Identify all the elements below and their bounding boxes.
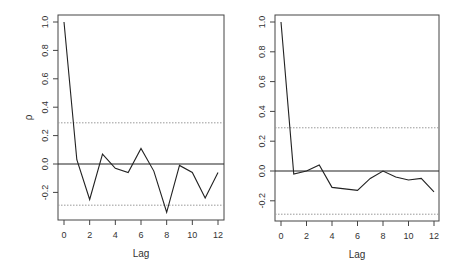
acf-figure: -0.20.00.20.40.60.81.0024681012Lagρ-0.20… — [0, 0, 461, 272]
y-tick-label: 0.6 — [257, 75, 267, 88]
acf-series-line — [281, 22, 434, 192]
x-tick-label: 12 — [213, 230, 223, 240]
y-tick-label: 1.0 — [257, 16, 267, 29]
x-tick-label: 2 — [87, 230, 92, 240]
y-tick-label: 0.0 — [257, 165, 267, 178]
x-axis-title: Lag — [133, 248, 150, 259]
acf-series-line — [64, 22, 218, 212]
y-tick-label: 0.0 — [40, 158, 50, 171]
x-tick-label: 2 — [304, 231, 309, 241]
y-tick-label: 1.0 — [40, 16, 50, 29]
x-tick-label: 6 — [355, 231, 360, 241]
y-tick-label: -0.2 — [40, 185, 50, 201]
x-tick-label: 8 — [164, 230, 169, 240]
plot-frame — [58, 15, 224, 220]
x-axis-title: Lag — [349, 249, 366, 260]
x-tick-label: 10 — [187, 230, 197, 240]
y-tick-label: 0.8 — [40, 44, 50, 57]
x-tick-label: 0 — [278, 231, 283, 241]
acf-panel-1: -0.20.00.20.40.60.81.0024681012Lagρ — [23, 15, 224, 259]
y-tick-label: 0.6 — [40, 73, 50, 86]
x-tick-label: 8 — [380, 231, 385, 241]
y-tick-label: 0.4 — [40, 101, 50, 114]
x-tick-label: 6 — [138, 230, 143, 240]
y-tick-label: -0.2 — [257, 193, 267, 209]
x-tick-label: 0 — [61, 230, 66, 240]
y-tick-label: 0.2 — [257, 135, 267, 148]
acf-panel-2: -0.20.00.20.40.60.81.0024681012Lag — [257, 15, 439, 260]
y-tick-label: 0.8 — [257, 46, 267, 59]
y-tick-label: 0.2 — [40, 129, 50, 142]
y-tick-label: 0.4 — [257, 105, 267, 118]
x-tick-label: 4 — [329, 231, 334, 241]
x-tick-label: 10 — [403, 231, 413, 241]
y-axis-title: ρ — [23, 114, 34, 120]
x-tick-label: 4 — [113, 230, 118, 240]
x-tick-label: 12 — [429, 231, 439, 241]
